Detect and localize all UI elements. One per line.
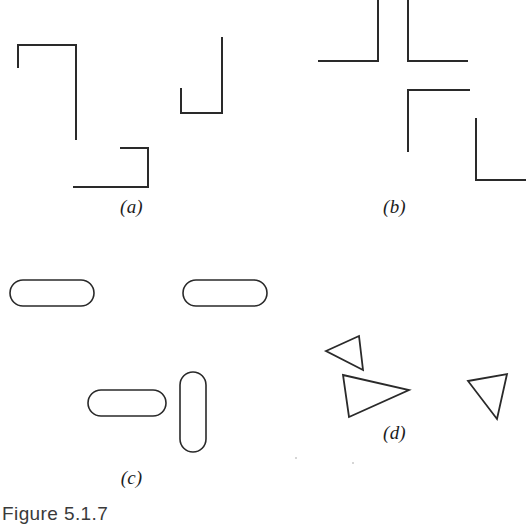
scan-speck bbox=[352, 462, 354, 464]
corner-upper-right bbox=[408, 0, 468, 61]
panel-label-d: (d) bbox=[263, 422, 526, 444]
panel-label-c: (c) bbox=[0, 467, 263, 489]
panel-b: (b) bbox=[263, 0, 526, 230]
panel-a: (a) bbox=[0, 0, 263, 230]
pill-top-left bbox=[10, 280, 94, 306]
bracket-j-right bbox=[181, 37, 222, 113]
panel-label-b: (b) bbox=[263, 196, 526, 218]
corner-lower-left bbox=[408, 90, 470, 152]
scan-speck bbox=[295, 457, 297, 459]
triangle-right-pointing-middle bbox=[343, 375, 409, 417]
panel-label-a: (a) bbox=[0, 196, 263, 218]
bracket-bottom-center bbox=[73, 148, 148, 187]
panel-b-canvas bbox=[263, 0, 526, 200]
pill-vertical bbox=[180, 372, 206, 452]
triangle-left-pointing-right bbox=[468, 374, 507, 419]
panel-c: (c) bbox=[0, 262, 263, 492]
panel-d: (d) bbox=[263, 262, 526, 492]
pill-bottom-center bbox=[88, 390, 166, 416]
bracket-top-left bbox=[18, 45, 76, 140]
panel-c-canvas bbox=[0, 262, 263, 462]
panel-a-canvas bbox=[0, 0, 263, 200]
figure-caption: Figure 5.1.7 bbox=[2, 503, 108, 525]
figure-container: (a) (b) (c) (d) Figure 5.1.7 bbox=[0, 0, 526, 528]
corner-lower-right bbox=[476, 118, 526, 180]
pill-top-right bbox=[183, 280, 267, 306]
triangle-left-pointing-upper bbox=[326, 336, 363, 370]
corner-upper-left bbox=[318, 0, 378, 61]
